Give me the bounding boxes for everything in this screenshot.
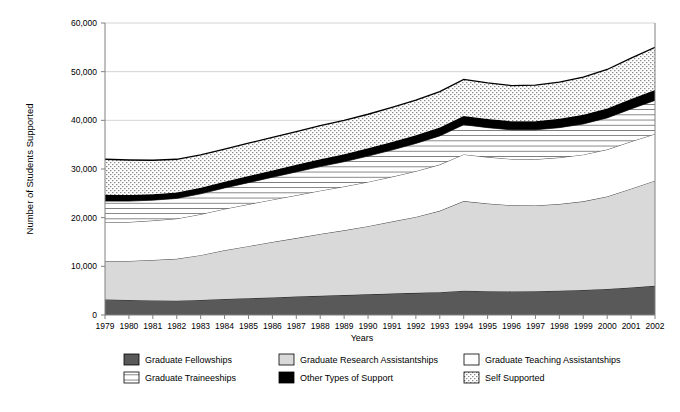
horizontal-lines-swatch: [124, 372, 139, 383]
legend-label: Graduate Fellowships: [145, 355, 233, 365]
x-tick-label-1987: 1987: [287, 321, 306, 331]
x-tick-label-2002: 2002: [646, 321, 665, 331]
x-tick-label-1982: 1982: [167, 321, 186, 331]
x-tick-label-1984: 1984: [215, 321, 234, 331]
y-tick-label-50000: 50,000: [71, 67, 97, 77]
y-tick-label-0: 0: [92, 310, 97, 320]
legend-label: Self Supported: [485, 373, 545, 383]
y-tick-label-40000: 40,000: [71, 115, 97, 125]
y-tick-label-20000: 20,000: [71, 213, 97, 223]
x-tick-label-1992: 1992: [406, 321, 425, 331]
x-tick-label-1991: 1991: [382, 321, 401, 331]
solid-light-gray-swatch: [279, 354, 294, 365]
x-tick-label-1985: 1985: [239, 321, 258, 331]
legend-item-self-supported[interactable]: Self Supported: [464, 372, 545, 383]
legend-label: Graduate Research Assistantships: [300, 355, 439, 365]
dotted-swatch: [464, 372, 479, 383]
x-tick-label-1996: 1996: [502, 321, 521, 331]
x-tick-label-1999: 1999: [574, 321, 593, 331]
x-tick-label-1998: 1998: [550, 321, 569, 331]
chart-figure: 010,00020,00030,00040,00050,00060,000 19…: [0, 0, 680, 412]
legend-item-graduate-teaching-assistantships[interactable]: Graduate Teaching Assistantships: [464, 354, 621, 365]
x-tick-label-1986: 1986: [263, 321, 282, 331]
legend-label: Graduate Teaching Assistantships: [485, 355, 621, 365]
empty-white-swatch: [464, 354, 479, 365]
x-tick-label-1997: 1997: [526, 321, 545, 331]
legend-label: Other Types of Support: [300, 373, 393, 383]
legend-item-graduate-research-assistantships[interactable]: Graduate Research Assistantships: [279, 354, 439, 365]
legend-label: Graduate Traineeships: [145, 373, 237, 383]
x-tick-label-1990: 1990: [359, 321, 378, 331]
stacked-area-chart: 010,00020,00030,00040,00050,00060,000 19…: [0, 0, 680, 412]
solid-black-swatch: [279, 372, 294, 383]
x-tick-label-1993: 1993: [430, 321, 449, 331]
y-axis-title: Number of Students Supported: [24, 104, 35, 235]
x-tick-label-1979: 1979: [96, 321, 115, 331]
x-tick-label-1983: 1983: [191, 321, 210, 331]
x-tick-label-1989: 1989: [335, 321, 354, 331]
x-tick-label-2000: 2000: [598, 321, 617, 331]
x-tick-label-1981: 1981: [143, 321, 162, 331]
x-tick-label-1994: 1994: [454, 321, 473, 331]
x-tick-label-1988: 1988: [311, 321, 330, 331]
y-tick-label-10000: 10,000: [71, 261, 97, 271]
x-tick-label-1980: 1980: [119, 321, 138, 331]
x-tick-label-2001: 2001: [622, 321, 641, 331]
x-tick-label-1995: 1995: [478, 321, 497, 331]
y-tick-label-60000: 60,000: [71, 18, 97, 28]
solid-dark-gray-swatch: [124, 354, 139, 365]
x-axis-title: Years: [351, 333, 374, 343]
y-tick-label-30000: 30,000: [71, 164, 97, 174]
